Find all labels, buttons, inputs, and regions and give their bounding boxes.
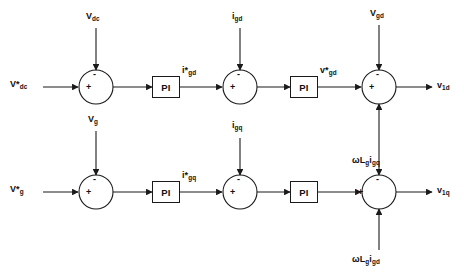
label-v1q-output: v1q xyxy=(437,186,450,195)
sum3-minus-sign: - xyxy=(376,70,379,79)
sum6-plus-sign: + xyxy=(358,188,363,197)
control-block-diagram: PI PI PI PI + - + - + - + - + - + - V*dc… xyxy=(0,0,464,279)
sum1-plus-sign: + xyxy=(86,83,91,92)
label-igd-feedback: igd xyxy=(232,12,243,21)
sum3-plus-sign: + xyxy=(369,83,374,92)
sum1-minus-sign: - xyxy=(93,70,96,79)
label-igq-reference: i*gq xyxy=(182,171,196,180)
label-vg-feedback: Vg xyxy=(88,115,98,124)
sum2-plus-sign: + xyxy=(230,83,235,92)
label-vg-reference: V*g xyxy=(10,185,24,194)
sum2-minus-sign: - xyxy=(237,70,240,79)
label-vgd-reference: v*gd xyxy=(320,66,337,75)
pi-block-inner-d[interactable]: PI xyxy=(290,76,318,98)
sum4-minus-sign: - xyxy=(93,175,96,184)
label-igq-feedback: igq xyxy=(232,121,243,130)
label-v1d-output: v1d xyxy=(437,81,450,90)
sum5-minus-sign: - xyxy=(237,175,240,184)
label-vdc-feedback: Vdc xyxy=(86,12,100,21)
pi-block-outer-d[interactable]: PI xyxy=(152,76,180,98)
label-coupling-wlg-igq: ωLgigq xyxy=(352,156,380,165)
sum6-minus-sign: - xyxy=(376,175,379,184)
label-vdc-reference: V*dc xyxy=(10,80,27,89)
pi-block-inner-q[interactable]: PI xyxy=(290,181,318,203)
label-vgd-feedforward: Vgd xyxy=(370,9,384,18)
pi-block-outer-q[interactable]: PI xyxy=(152,181,180,203)
label-coupling-wlg-igd: ωLgigd xyxy=(352,255,380,264)
sum5-plus-sign: + xyxy=(230,188,235,197)
wire-layer xyxy=(0,0,464,279)
sum4-plus-sign: + xyxy=(86,188,91,197)
label-igd-reference: i*gd xyxy=(182,66,196,75)
